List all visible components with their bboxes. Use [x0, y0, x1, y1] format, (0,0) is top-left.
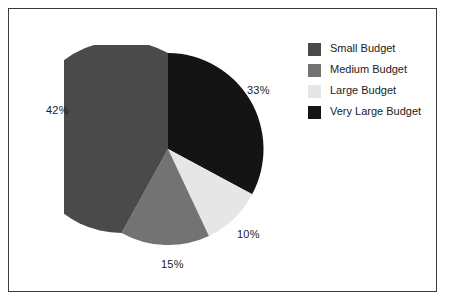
legend-swatch-icon-small-budget — [308, 43, 321, 56]
legend-item-large-budget[interactable]: Large Budget — [308, 84, 438, 98]
legend-label-large-budget: Large Budget — [330, 84, 396, 97]
chart-frame: 33% 42% 10% 15% Small Budget Medium Budg… — [8, 8, 437, 292]
legend-item-very-large-budget[interactable]: Very Large Budget — [308, 105, 438, 119]
legend-swatch-icon-very-large-budget — [308, 106, 321, 119]
pie-value-label-small-budget: 42% — [46, 104, 69, 116]
pie-value-label-very-large-budget: 33% — [247, 84, 270, 96]
pie-chart — [64, 45, 272, 253]
legend-item-medium-budget[interactable]: Medium Budget — [308, 63, 438, 77]
legend-swatch-icon-large-budget — [308, 85, 321, 98]
pie-value-label-large-budget: 10% — [237, 228, 260, 240]
pie-value-label-medium-budget: 15% — [161, 258, 184, 270]
legend-swatch-icon-medium-budget — [308, 64, 321, 77]
pie-chart-svg — [64, 45, 272, 253]
legend-label-medium-budget: Medium Budget — [330, 63, 407, 76]
legend-item-small-budget[interactable]: Small Budget — [308, 42, 438, 56]
legend-label-very-large-budget: Very Large Budget — [330, 105, 421, 118]
legend-label-small-budget: Small Budget — [330, 42, 395, 55]
chart-legend: Small Budget Medium Budget Large Budget … — [308, 42, 438, 126]
